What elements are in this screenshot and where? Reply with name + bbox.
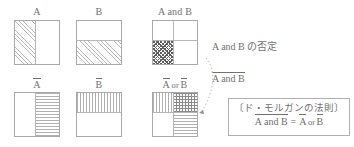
panel-label-not-b: B (76, 78, 122, 90)
panel-box-not-b (76, 92, 122, 137)
panel-b-divider (77, 40, 121, 41)
panel-box-b (76, 20, 122, 65)
negation-caption: A and B の否定 (212, 38, 277, 53)
law-formula: A and B=AorB (229, 114, 349, 129)
panel-box-a-and-b (152, 20, 198, 65)
panel-a-shaded-left-half (15, 21, 35, 64)
panel-label-not-b-text: B (96, 78, 103, 90)
panel-not-a-or-not-b-divider-v (173, 93, 174, 136)
panel-label-a-and-b: A and B (152, 6, 198, 17)
law-formula-right-a: A (299, 114, 306, 128)
panel-a-and-b-divider-v (173, 21, 174, 64)
panel-a-and-b-divider-h (153, 40, 197, 41)
panel-not-a-shaded-right-half (35, 93, 59, 136)
panel-b-shaded-bottom-half (77, 40, 121, 64)
panel-label-not-a-or-not-b-or: or (170, 80, 180, 90)
panel-label-a: A (14, 6, 60, 17)
negation-term: A and B (212, 72, 245, 84)
panel-label-b: B (76, 6, 122, 17)
panel-label-not-a-or-not-b-b: B (181, 78, 188, 90)
panel-box-not-a-or-not-b (152, 92, 198, 137)
panel-box-not-a (14, 92, 60, 137)
law-formula-equals: = (288, 116, 300, 127)
panel-quadrant-top-right-crosshatch (173, 93, 197, 112)
panel-quadrant-top-left-vertical (153, 93, 173, 112)
panel-not-b-divider (77, 112, 121, 113)
panel-label-not-a-text: A (33, 78, 40, 90)
law-formula-left: A and B (255, 114, 288, 128)
panel-a-divider (35, 21, 36, 64)
panel-not-a-or-not-b-divider-h (153, 112, 197, 113)
panel-a-and-b-shaded-quadrant (153, 40, 173, 64)
panel-box-a (14, 20, 60, 65)
law-formula-right-or: or (306, 117, 316, 127)
panel-quadrant-bottom-right-horizontal (173, 112, 197, 136)
panel-label-not-a-or-not-b-a: A (163, 78, 170, 90)
panel-not-b-shaded-top-half (77, 93, 121, 112)
de-morgan-law-box: 〔ド・モルガンの法則〕 A and B=AorB (228, 98, 350, 136)
law-heading: 〔ド・モルガンの法則〕 (229, 102, 349, 114)
negation-term-text: A and B (212, 72, 245, 84)
panel-label-not-a: A (14, 78, 60, 90)
panel-label-not-a-or-not-b: AorB (152, 78, 198, 90)
law-formula-right-b: B (317, 114, 324, 128)
panel-not-a-divider (35, 93, 36, 136)
diagram-canvas: A B A and B A B AorB (0, 0, 354, 147)
